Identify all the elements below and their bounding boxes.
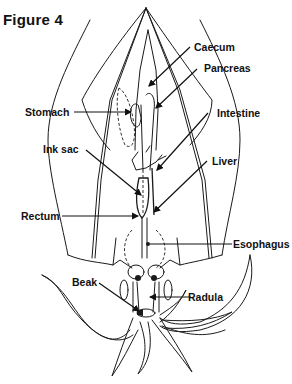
label-radula: Radula — [188, 291, 223, 303]
label-caecum: Caecum — [194, 41, 235, 53]
squid-anatomy-figure: Figure 4 — [0, 0, 292, 384]
leader-lines — [62, 47, 232, 311]
squid-drawing — [0, 0, 292, 384]
head-and-arms — [42, 255, 252, 376]
ink-sac-leader — [86, 150, 141, 195]
label-liver: Liver — [212, 155, 237, 167]
label-pancreas: Pancreas — [204, 62, 251, 74]
label-esophagus: Esophagus — [233, 238, 290, 250]
label-intestine: Intestine — [217, 107, 260, 119]
pancreas-leader — [156, 69, 197, 108]
liver-leader — [154, 161, 207, 212]
organs — [117, 88, 166, 268]
liver-edge — [152, 168, 154, 215]
label-beak: Beak — [72, 276, 97, 288]
caecum-sac — [117, 88, 134, 146]
label-stomach: Stomach — [25, 106, 69, 118]
left-eye — [120, 280, 128, 300]
label-ink-sac: Ink sac — [43, 143, 79, 155]
label-rectum: Rectum — [21, 210, 60, 222]
